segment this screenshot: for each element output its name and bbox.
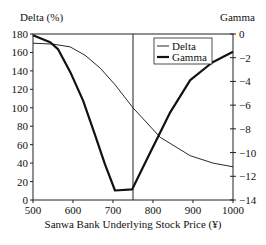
y-tick-label-left: 20 [17,176,29,188]
x-tick-label: 600 [65,204,82,216]
y-tick-label-right: −2 [239,52,251,64]
legend-label-gamma: Gamma [172,51,207,63]
x-tick-label: 800 [145,204,162,216]
y-tick-label-right: −10 [239,147,257,159]
y-tick-label-left: 0 [23,194,29,206]
y-tick-label-right: 0 [239,28,245,40]
delta-gamma-chart: 5006007008009001000020406080100120140160… [0,0,266,245]
y-tick-label-left: 40 [17,157,29,169]
y-tick-label-right: −12 [239,170,256,182]
y-tick-label-left: 160 [12,46,29,58]
y-tick-label-left: 180 [12,28,29,40]
y-tick-label-left: 100 [12,102,29,114]
y-tick-label-left: 140 [12,65,29,77]
x-tick-label: 900 [185,204,202,216]
y-axis-label-left: Delta (%) [20,11,63,24]
x-tick-label: 700 [105,204,122,216]
y-tick-label-right: −8 [239,123,251,135]
y-tick-label-left: 60 [17,139,29,151]
y-tick-label-left: 120 [12,83,29,95]
y-tick-label-right: −14 [239,194,257,206]
x-axis-label: Sanwa Bank Underlying Stock Price (¥) [45,218,222,231]
y-tick-label-right: −6 [239,99,251,111]
y-tick-label-left: 80 [17,120,29,132]
y-tick-label-right: −4 [239,75,251,87]
legend: DeltaGamma [154,38,212,64]
y-axis-label-right: Gamma [220,11,255,23]
